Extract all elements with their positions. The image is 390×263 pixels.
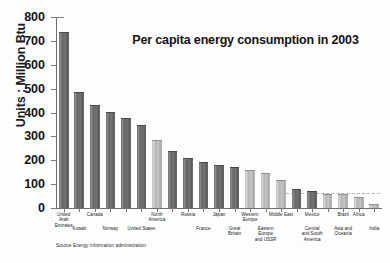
bar xyxy=(307,191,317,208)
bar xyxy=(106,112,116,208)
bar xyxy=(152,140,162,208)
source-note: Source Energy information administration xyxy=(56,243,146,248)
bar xyxy=(90,105,100,208)
y-axis-title: Units : Million Btu xyxy=(14,10,28,140)
y-axis-tick: 500 xyxy=(51,89,56,90)
x-axis-tick xyxy=(328,208,329,212)
x-axis-category-label: Eastern Europe and USSR xyxy=(255,226,277,242)
x-axis-category-label: Central and South America xyxy=(302,226,323,242)
y-axis-tick: 100 xyxy=(51,184,56,185)
y-axis-tick-label: 200 xyxy=(24,153,45,167)
y-axis-tick-label: 300 xyxy=(24,129,45,143)
bar xyxy=(292,189,302,208)
y-axis-tick: 300 xyxy=(51,136,56,137)
x-axis-category-label: Africa xyxy=(353,212,365,217)
y-axis-tick-label: 100 xyxy=(24,177,45,191)
bar xyxy=(137,125,147,208)
x-axis-tick xyxy=(126,208,127,212)
bar xyxy=(121,118,131,208)
x-axis-tick xyxy=(374,208,375,212)
bar xyxy=(245,170,255,208)
bar xyxy=(74,92,84,208)
x-axis-category-label: Middle East xyxy=(269,212,293,217)
x-axis-tick xyxy=(172,208,173,212)
x-axis-tick xyxy=(235,208,236,212)
x-axis-category-label: Asia and Oceania xyxy=(334,226,352,237)
x-axis-tick xyxy=(141,208,142,212)
y-axis-tick-label: 600 xyxy=(24,58,45,72)
bar xyxy=(338,194,348,208)
x-axis-category-label: Great Britain xyxy=(228,226,241,237)
x-axis-category-label: Mexico xyxy=(305,212,320,217)
x-axis-category-label: United Arab Emirates xyxy=(55,212,73,228)
bar xyxy=(276,180,286,208)
y-axis-tick: 200 xyxy=(51,160,56,161)
x-axis-category-label: Norway xyxy=(103,226,119,231)
x-axis-tick xyxy=(79,208,80,212)
y-axis-tick-label: 800 xyxy=(24,10,45,24)
bar xyxy=(214,165,224,208)
bar xyxy=(261,173,271,208)
y-axis-tick-label: 700 xyxy=(24,34,45,48)
y-axis-tick-label: 400 xyxy=(24,106,45,120)
bar xyxy=(354,197,364,208)
y-axis-tick: 400 xyxy=(51,113,56,114)
bar xyxy=(59,32,69,208)
x-axis-tick xyxy=(266,208,267,212)
y-axis-top-cap xyxy=(56,17,64,18)
x-axis-tick xyxy=(203,208,204,212)
plot-area: 0100200300400500600700800 xyxy=(56,17,382,208)
y-axis-tick-label: 500 xyxy=(24,82,45,96)
y-axis-tick: 600 xyxy=(51,65,56,66)
y-axis-tick: 700 xyxy=(51,41,56,42)
x-axis-category-label: United States xyxy=(128,226,156,231)
x-axis-category-label: Kuwait xyxy=(72,226,86,231)
bar xyxy=(168,151,178,208)
bar xyxy=(183,158,193,208)
x-axis-category-label: Russia xyxy=(181,212,195,217)
y-axis-tick-label: 0 xyxy=(38,201,45,215)
x-axis-category-label: Canada xyxy=(87,212,103,217)
chart-container: Units : Million Btu Per capita energy co… xyxy=(0,0,390,263)
bar xyxy=(230,167,240,208)
y-axis-line xyxy=(56,17,57,208)
x-axis-category-label: India xyxy=(369,226,379,231)
y-axis-tick: 800 xyxy=(51,17,56,18)
x-axis-category-label: Brazil xyxy=(337,212,349,217)
x-axis-category-label: North America xyxy=(148,212,165,223)
x-axis-category-label: France xyxy=(196,226,210,231)
y-axis-tick: 0 xyxy=(51,208,56,209)
x-axis-tick xyxy=(297,208,298,212)
x-axis-category-label: Western Europe xyxy=(242,212,259,223)
bar xyxy=(323,194,333,208)
bar xyxy=(199,162,209,208)
x-axis-category-label: Japan xyxy=(213,212,226,217)
x-axis-tick xyxy=(110,208,111,212)
